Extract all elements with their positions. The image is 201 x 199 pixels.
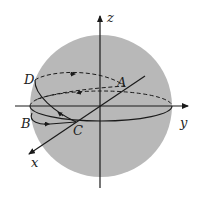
point-b-label: B xyxy=(20,116,31,131)
point-c-label: C xyxy=(73,123,83,138)
z-axis-label: z xyxy=(106,10,114,25)
y-axis-label: y xyxy=(179,115,188,130)
point-a-label: A xyxy=(116,75,126,90)
sphere-diagram: z y x A B C D xyxy=(0,0,201,199)
x-axis-label: x xyxy=(31,155,39,170)
point-d-label: D xyxy=(23,72,35,87)
